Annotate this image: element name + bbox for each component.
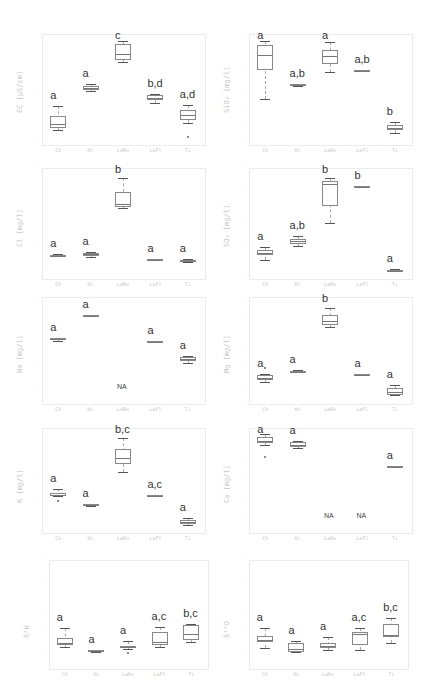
- box-LaRo: [322, 181, 338, 205]
- whisker-cap: [386, 643, 396, 644]
- y-tick: ·: [31, 575, 47, 580]
- median-line: [355, 375, 369, 376]
- median-line: [153, 642, 167, 643]
- median-line: [148, 496, 162, 497]
- y-axis-label: δ¹⁸O: [223, 621, 231, 638]
- median-line: [258, 640, 272, 641]
- median-line: [353, 634, 367, 635]
- median-line: [184, 634, 198, 635]
- y-tick: ·: [231, 275, 247, 280]
- y-tick: ·: [24, 460, 40, 465]
- x-tick-label: LaFl: [140, 406, 170, 412]
- y-tick: ·: [231, 494, 247, 499]
- significance-letter: a: [387, 450, 393, 461]
- significance-letter: a: [50, 322, 56, 333]
- plot-area-cl: [42, 168, 206, 280]
- significance-letter: a: [257, 358, 263, 369]
- y-tick: ·: [24, 123, 40, 128]
- x-tick-label: LaRo: [313, 671, 343, 677]
- y-tick: ·: [231, 86, 247, 91]
- x-tick-label: LaRo: [315, 147, 345, 153]
- x-tick-label: Hi: [281, 671, 311, 677]
- x-tick-label: Ti: [376, 671, 406, 677]
- x-tick-label: LaFl: [347, 535, 377, 541]
- y-tick: ·: [231, 183, 247, 188]
- whisker-cap: [183, 525, 193, 526]
- x-tick-label: LaRo: [315, 406, 345, 412]
- box-Hi: [290, 371, 306, 373]
- y-tick: ·: [231, 238, 247, 243]
- whisker-cap: [293, 86, 303, 87]
- y-tick: ·: [231, 425, 247, 430]
- significance-letter: b: [354, 170, 360, 181]
- y-tick: ·: [231, 575, 247, 580]
- y-tick: ·: [24, 529, 40, 534]
- box-Hi: [83, 86, 99, 90]
- y-axis-label: Mg [mg/l]: [223, 335, 231, 373]
- box-Ti: [180, 357, 196, 361]
- whisker-cap: [118, 62, 128, 63]
- whisker-cap: [53, 130, 63, 131]
- y-tick: ·: [31, 593, 47, 598]
- significance-letter: a: [147, 243, 153, 254]
- significance-letter: a: [387, 369, 393, 380]
- x-tick-label: Ti: [173, 406, 203, 412]
- y-tick: ·: [231, 329, 247, 334]
- significance-letter: a,c: [152, 611, 167, 622]
- box-Hi: [83, 315, 99, 317]
- y-tick: ·: [231, 68, 247, 73]
- whisker-cap: [386, 618, 396, 619]
- box-Hi: [288, 643, 304, 652]
- whisker-cap: [291, 641, 301, 642]
- y-tick: ·: [24, 275, 40, 280]
- box-Ch: [257, 636, 273, 642]
- whisker-cap: [323, 637, 333, 638]
- significance-letter: a,b: [354, 54, 369, 65]
- y-tick: ·: [31, 611, 47, 616]
- whisker-cap: [325, 223, 335, 224]
- y-tick: ·: [31, 647, 47, 652]
- whisker-cap: [390, 395, 400, 396]
- whisker-cap: [186, 642, 196, 643]
- box-LaFl: [354, 374, 370, 376]
- median-line: [258, 55, 272, 56]
- significance-letter: a: [257, 231, 263, 242]
- significance-letter: a: [180, 243, 186, 254]
- box-Ch: [257, 250, 273, 255]
- na-annotation: NA: [117, 383, 127, 390]
- median-line: [58, 643, 72, 644]
- x-tick-label: LaFl: [140, 535, 170, 541]
- y-tick: ·: [24, 442, 40, 447]
- significance-letter: b: [322, 293, 328, 304]
- significance-letter: a,b: [290, 68, 305, 79]
- median-line: [291, 85, 305, 86]
- x-tick-label: LaRo: [108, 535, 138, 541]
- x-tick-label: LaRo: [315, 535, 345, 541]
- y-tick: ·: [24, 165, 40, 170]
- median-line: [148, 98, 162, 99]
- y-tick: ·: [24, 49, 40, 54]
- y-tick: ·: [24, 238, 40, 243]
- y-tick: ·: [24, 220, 40, 225]
- median-line: [355, 71, 369, 72]
- y-axis-label: EC [µS/cm]: [16, 71, 24, 113]
- y-tick: ·: [231, 165, 247, 170]
- significance-letter: a: [322, 30, 328, 41]
- box-LaRo: [115, 44, 131, 59]
- y-tick: ·: [231, 202, 247, 207]
- significance-letter: a: [320, 621, 326, 632]
- y-tick: ·: [231, 257, 247, 262]
- y-tick: ·: [24, 86, 40, 91]
- median-line: [258, 253, 272, 254]
- y-tick: ·: [231, 647, 247, 652]
- whisker-cap: [53, 489, 63, 490]
- x-tick-label: Ch: [250, 406, 280, 412]
- median-line: [116, 54, 130, 55]
- box-Ti: [180, 520, 196, 524]
- median-line: [181, 359, 195, 360]
- y-axis-label: SiO₂ [mg/l]: [223, 67, 231, 113]
- y-tick: ·: [24, 512, 40, 517]
- box-LaRo: [115, 192, 131, 207]
- median-line: [388, 467, 402, 468]
- x-tick-label: Hi: [283, 147, 313, 153]
